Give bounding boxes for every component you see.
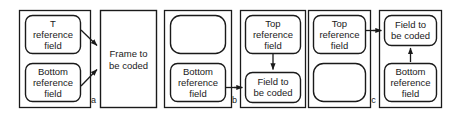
box-label-line-2: reference [253,29,293,40]
panel-c-letter: c [371,95,376,105]
panel-b: Bottom reference field b Top reference f… [165,11,306,108]
box-label-line-1: Field to [395,19,426,30]
panel-a-frame-to-be-coded-box[interactable]: Frame to be coded [101,11,157,108]
panel-a-bottom-reference-field-box[interactable]: Bottom reference field [26,64,81,102]
box-label-line-1: Top [332,18,347,29]
box-label-line-3: field [264,40,281,51]
panel-b-bottom-reference-field-box[interactable]: Bottom reference field [171,64,226,102]
box-label-line-2: reference [178,77,218,88]
panel-a-top-reference-field-box[interactable]: T reference field [26,16,81,54]
box-outline [314,64,366,102]
reference-field-diagram: T reference field Bottom reference field… [0,0,461,120]
box-label-line-3: field [189,88,206,99]
box-label-line-1: Bottom [38,66,68,77]
box-label-line-1: Bottom [395,66,425,77]
panel-c-bottom-reference-field-box[interactable]: Bottom reference field [385,64,437,102]
panel-b-field-to-be-coded-box[interactable]: Field to be coded [246,73,301,103]
box-label-line-3: field [331,40,348,51]
box-label-line-2: be coded [253,87,292,98]
box-label-line-1: Bottom [183,66,213,77]
panel-c-top-reference-field-box[interactable]: Top reference field [314,16,366,54]
box-label-line-3: field [44,40,61,51]
box-label-line-2: reference [319,29,359,40]
box-label-line-2: reference [33,29,73,40]
panel-b-empty-reference-box[interactable] [171,16,226,54]
figure-canvas: T reference field Bottom reference field… [0,0,461,120]
box-label-line-2: be coded [391,30,430,41]
box-label-line-3: field [44,88,61,99]
box-label-line-1: Field to [257,76,288,87]
panel-b-letter: b [232,95,237,105]
box-label-line-3: field [402,88,419,99]
box-label-line-2: reference [390,77,430,88]
box-label-line-1: T [50,18,56,29]
panel-c-field-to-be-coded-box[interactable]: Field to be coded [385,16,437,46]
box-label-line-2: reference [33,77,73,88]
panel-c: Top reference field c Field to be coded … [309,11,442,108]
panel-c-empty-reference-box[interactable] [314,64,366,102]
box-label-line-2: be coded [109,60,148,71]
box-label-line-1: Top [265,18,280,29]
panel-a-letter: a [91,95,96,105]
box-label-line-1: Frame to [109,48,147,59]
panel-a: T reference field Bottom reference field… [20,11,157,108]
box-outline [171,16,226,54]
panel-b-top-reference-field-box[interactable]: Top reference field [246,16,301,54]
